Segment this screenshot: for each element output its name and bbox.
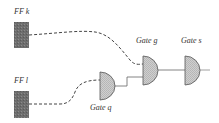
gate-g-label: Gate g: [136, 36, 158, 45]
ff-k-label: FF k: [13, 7, 30, 16]
gate-s: Gate s: [181, 36, 202, 85]
flipflop-ff-k: FF k: [13, 7, 30, 48]
and-gate-icon: [185, 56, 200, 85]
ff-l-box: [14, 91, 29, 118]
wire-ffk-to-gate-g: [29, 31, 143, 64]
gate-q-label: Gate q: [90, 103, 112, 112]
gate-s-label: Gate s: [181, 36, 202, 45]
and-gate-icon: [100, 72, 115, 100]
and-gate-icon: [143, 56, 158, 85]
gate-g: Gate g: [136, 36, 158, 85]
wire-ffl-to-gate-q: [29, 80, 100, 104]
gate-q: Gate q: [90, 72, 115, 112]
flipflop-ff-l: FF l: [13, 76, 29, 118]
circuit-diagram: FF k FF l Gate q Gate g Gate s: [0, 0, 219, 123]
ff-l-label: FF l: [13, 76, 29, 85]
ff-k-box: [14, 22, 29, 48]
wire-gate-q-to-gate-g: [114, 77, 143, 86]
